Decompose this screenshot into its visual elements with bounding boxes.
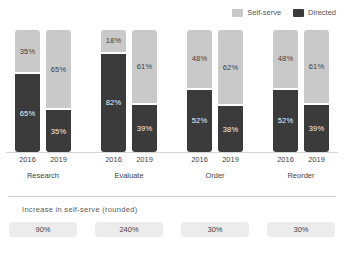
segment-directed: 39% [132, 105, 157, 152]
bar-evaluate-2019[interactable]: 61% 39% [132, 30, 157, 152]
segment-self-serve: 61% [304, 30, 329, 103]
axis-group-research: 2016 2019 Research [15, 155, 71, 180]
bar-group-order: 48% 52% 62% 38% [187, 30, 243, 152]
segment-directed: 38% [218, 106, 243, 152]
legend-item-directed[interactable]: Directed [293, 8, 336, 17]
bar-group-evaluate: 18% 82% 61% 39% [101, 30, 157, 152]
segment-self-serve: 61% [132, 30, 157, 103]
axis-year-label: 2019 [218, 155, 243, 164]
bar-groups: 35% 65% 65% 35% 18% 82% 61% [0, 30, 344, 152]
increase-badges: 90% 240% 30% 30% [0, 222, 344, 237]
segment-self-serve: 18% [101, 30, 126, 52]
axis-group-evaluate: 2016 2019 Evaluate [101, 155, 157, 180]
footer-caption: Increase in self-serve (rounded) [22, 205, 137, 214]
stacked-bar-chart: Self-serve Directed 35% 65% 65% 35% [0, 0, 344, 253]
segment-self-serve: 35% [15, 30, 40, 72]
axis-group-reorder: 2016 2019 Reorder [273, 155, 329, 180]
bar-order-2016[interactable]: 48% 52% [187, 30, 212, 152]
legend-swatch-icon [232, 9, 243, 17]
segment-directed: 82% [101, 54, 126, 152]
bar-group-reorder: 48% 52% 61% 39% [273, 30, 329, 152]
axis-group-order: 2016 2019 Order [187, 155, 243, 180]
axis-baseline [6, 152, 338, 153]
legend-item-self-serve[interactable]: Self-serve [232, 8, 281, 17]
bar-evaluate-2016[interactable]: 18% 82% [101, 30, 126, 152]
axis-year-label: 2019 [132, 155, 157, 164]
segment-directed: 65% [15, 74, 40, 152]
segment-self-serve: 62% [218, 30, 243, 104]
bar-reorder-2016[interactable]: 48% 52% [273, 30, 298, 152]
axis-year-label: 2016 [187, 155, 212, 164]
x-axis: 2016 2019 Research 2016 2019 Evaluate 20… [0, 155, 344, 189]
increase-badge-research: 90% [9, 222, 77, 237]
axis-year-label: 2016 [101, 155, 126, 164]
axis-category-label: Research [27, 171, 59, 180]
footer-divider [8, 196, 336, 197]
legend-swatch-icon [293, 9, 304, 17]
legend-label: Self-serve [247, 8, 281, 17]
legend-label: Directed [308, 8, 336, 17]
bar-research-2019[interactable]: 65% 35% [46, 30, 71, 152]
plot-area: 35% 65% 65% 35% 18% 82% 61% [0, 30, 344, 153]
chart-legend: Self-serve Directed [232, 8, 336, 17]
increase-badge-order: 30% [181, 222, 249, 237]
segment-directed: 52% [273, 90, 298, 152]
axis-year-label: 2016 [273, 155, 298, 164]
bar-order-2019[interactable]: 62% 38% [218, 30, 243, 152]
axis-year-label: 2016 [15, 155, 40, 164]
segment-directed: 52% [187, 90, 212, 152]
increase-badge-reorder: 30% [267, 222, 335, 237]
axis-category-label: Evaluate [114, 171, 143, 180]
cropped-title-remnant [62, 0, 192, 4]
bar-group-research: 35% 65% 65% 35% [15, 30, 71, 152]
axis-year-label: 2019 [304, 155, 329, 164]
segment-directed: 39% [304, 105, 329, 152]
segment-self-serve: 48% [187, 30, 212, 88]
segment-directed: 35% [46, 110, 71, 152]
segment-self-serve: 48% [273, 30, 298, 88]
axis-category-label: Reorder [287, 171, 314, 180]
increase-badge-evaluate: 240% [95, 222, 163, 237]
axis-category-label: Order [205, 171, 224, 180]
segment-self-serve: 65% [46, 30, 71, 108]
bar-reorder-2019[interactable]: 61% 39% [304, 30, 329, 152]
axis-year-label: 2019 [46, 155, 71, 164]
bar-research-2016[interactable]: 35% 65% [15, 30, 40, 152]
